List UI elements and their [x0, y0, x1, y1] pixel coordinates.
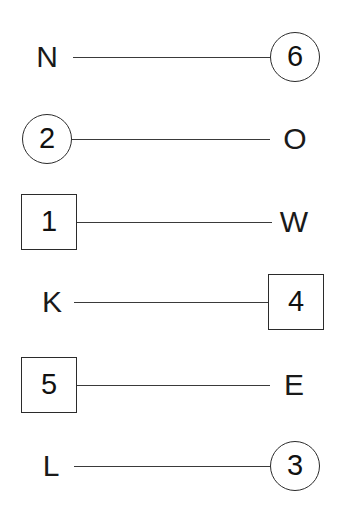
connector-line	[77, 222, 272, 223]
node-right-label: 6	[287, 42, 303, 71]
connector-line	[73, 57, 270, 58]
node-right-letter[interactable]: O	[275, 124, 315, 154]
node-left-label: 1	[41, 207, 57, 236]
node-right-label: 4	[288, 287, 304, 316]
node-left-square[interactable]: 5	[21, 357, 77, 413]
pair-row: K 4	[0, 259, 343, 345]
node-right-letter[interactable]: W	[274, 207, 314, 237]
node-right-circle[interactable]: 3	[270, 441, 320, 491]
node-left-letter[interactable]: N	[27, 42, 67, 72]
node-left-label: 5	[41, 370, 57, 399]
pair-row: L 3	[0, 423, 343, 509]
node-right-square[interactable]: 4	[268, 274, 324, 330]
node-left-letter[interactable]: K	[32, 287, 72, 317]
matching-diagram-canvas: N 6 2 O 1 W K 4 5 E L	[0, 0, 343, 520]
connector-line	[77, 385, 270, 386]
node-right-letter[interactable]: E	[274, 370, 314, 400]
node-left-circle[interactable]: 2	[22, 114, 72, 164]
node-left-label: 2	[39, 124, 55, 153]
pair-row: 2 O	[0, 96, 343, 182]
pair-row: 5 E	[0, 342, 343, 428]
connector-line	[74, 302, 268, 303]
node-right-label: 3	[287, 451, 303, 480]
node-right-circle[interactable]: 6	[270, 32, 320, 82]
connector-line	[72, 139, 270, 140]
pair-row: N 6	[0, 14, 343, 100]
connector-line	[74, 466, 270, 467]
node-left-square[interactable]: 1	[21, 194, 77, 250]
pair-row: 1 W	[0, 179, 343, 265]
node-left-letter[interactable]: L	[31, 451, 71, 481]
